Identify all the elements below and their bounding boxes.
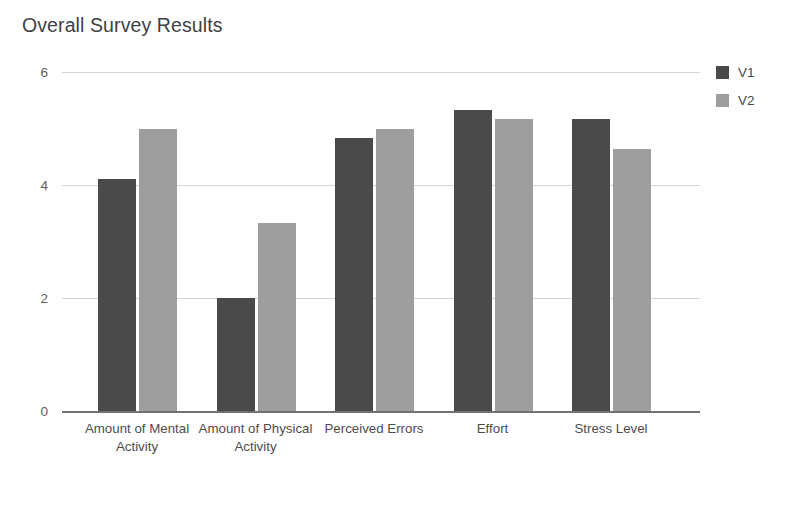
- chart-title: Overall Survey Results: [22, 14, 223, 37]
- y-axis-tick-label: 4: [8, 178, 48, 193]
- x-axis-category-label: Perceived Errors: [309, 420, 439, 438]
- y-axis-tick-label: 2: [8, 291, 48, 306]
- x-axis-category-label: Amount of Mental Activity: [72, 420, 202, 455]
- plot-area: [62, 72, 700, 411]
- chart-legend: V1V2: [716, 58, 786, 114]
- legend-label: V1: [738, 65, 755, 80]
- bar-v2[interactable]: [495, 119, 533, 411]
- bar-group: [572, 72, 651, 411]
- bar-v2[interactable]: [139, 129, 177, 412]
- x-axis-category-label: Effort: [428, 420, 558, 438]
- bar-v1[interactable]: [454, 110, 492, 411]
- bar-v2[interactable]: [613, 149, 651, 411]
- bar-v1[interactable]: [217, 298, 255, 411]
- x-axis-line: [62, 411, 700, 413]
- legend-item-v2[interactable]: V2: [716, 86, 786, 114]
- legend-swatch-icon: [716, 66, 729, 79]
- legend-item-v1[interactable]: V1: [716, 58, 786, 86]
- bar-v1[interactable]: [572, 119, 610, 411]
- bar-group: [98, 72, 177, 411]
- y-axis-tick-label: 0: [8, 404, 48, 419]
- x-axis-category-label: Amount of Physical Activity: [191, 420, 321, 455]
- bar-chart: Overall Survey Results 0246 V1V2 Amount …: [0, 0, 792, 515]
- x-axis-category-label: Stress Level: [546, 420, 676, 438]
- legend-label: V2: [738, 93, 755, 108]
- bar-v2[interactable]: [258, 223, 296, 411]
- bar-v1[interactable]: [98, 179, 136, 411]
- bar-v2[interactable]: [376, 129, 414, 412]
- bar-v1[interactable]: [335, 138, 373, 411]
- legend-swatch-icon: [716, 94, 729, 107]
- y-axis-tick-label: 6: [8, 65, 48, 80]
- bar-group: [217, 72, 296, 411]
- bar-group: [454, 72, 533, 411]
- y-axis-tick-labels: 0246: [0, 0, 48, 515]
- bar-group: [335, 72, 414, 411]
